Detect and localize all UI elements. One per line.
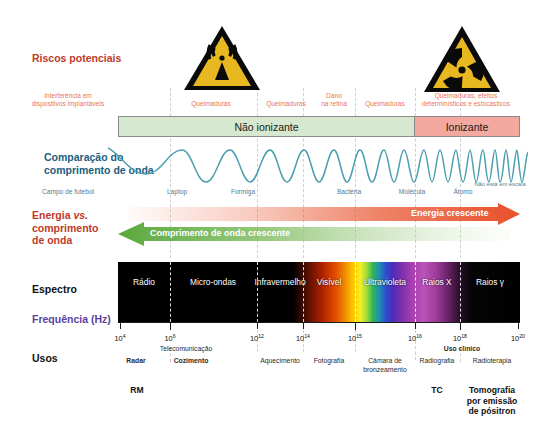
scale-object-label: Formiga <box>218 188 268 196</box>
spectrum-band-label: Raios γ <box>464 277 516 287</box>
axis-tick <box>257 322 258 329</box>
tick-mantissa: 10 <box>114 334 122 343</box>
frequency-tick-label: 1012 <box>242 332 272 343</box>
tick-mantissa: 10 <box>408 334 416 343</box>
use-label: Fotografia <box>302 357 356 366</box>
frequency-tick-label: 1015 <box>340 332 370 343</box>
risk-caption: Dano na retina <box>311 92 357 108</box>
tick-mantissa: 10 <box>296 334 304 343</box>
ionizing-radiation-sign <box>420 22 504 96</box>
axis-tick <box>460 322 461 330</box>
tick-mantissa: 10 <box>511 334 519 343</box>
modality-label-line: TC <box>417 385 457 396</box>
tick-mantissa: 10 <box>250 334 258 343</box>
modality-label-line: Tomografia <box>456 385 528 396</box>
tick-mantissa: 10 <box>453 334 461 343</box>
risk-caption: Queimaduras, efeitos determinísticos e e… <box>402 92 530 108</box>
axis-tick <box>303 322 304 329</box>
modality-label-line: RM <box>117 385 157 396</box>
spectrum-band-label: Micro-ondas <box>175 277 251 287</box>
spectrum-divider <box>303 262 304 322</box>
band-ionizing: Ionizante <box>414 117 519 136</box>
axis-tick <box>355 322 356 330</box>
spectrum-band-label: Ultravioleta <box>353 277 417 287</box>
use-label: Cozimento <box>160 357 222 366</box>
row-title-energy: Energia vs. comprimento de onda <box>32 209 122 247</box>
spectrum-band-label: Raios X <box>411 277 463 287</box>
vs-word: vs. <box>73 209 88 221</box>
band-non-ionizing: Não ionizante <box>119 117 414 136</box>
risk-caption: Queimaduras <box>176 100 246 108</box>
tick-exponent: 18 <box>461 333 467 339</box>
row-title-risks: Riscos potenciais <box>32 52 121 65</box>
tick-exponent: 6 <box>173 333 176 339</box>
spectrum-band-label: Rádio <box>118 277 170 287</box>
scale-object-label: Laptop <box>152 188 202 196</box>
tick-exponent: 14 <box>304 333 310 339</box>
use-label: Uso clínico <box>432 345 492 354</box>
risk-caption-line: Queimaduras <box>176 100 246 108</box>
row-title-uses: Usos <box>32 352 58 365</box>
tick-exponent: 15 <box>356 333 362 339</box>
not-to-scale-note: Não está em escala <box>464 180 536 188</box>
tick-exponent: 20 <box>519 333 525 339</box>
tick-exponent: 4 <box>123 333 126 339</box>
energy-arrow-label: Energia crescente <box>411 209 489 218</box>
frequency-tick-label: 106 <box>156 332 184 343</box>
spectrum-divider <box>355 262 356 322</box>
scale-object-label: Molécula <box>387 188 437 196</box>
modality-label: Tomografia por emissão de pósitron <box>456 385 528 417</box>
use-label: Radioterapia <box>462 357 522 366</box>
modality-label: RM <box>117 385 157 396</box>
frequency-tick-label: 104 <box>106 332 134 343</box>
risk-caption-line: na retina <box>311 100 357 108</box>
spectrum-divider <box>257 262 258 322</box>
use-label: Radiografia <box>409 357 465 366</box>
spectrum-divider <box>460 262 461 322</box>
axis-tick <box>170 322 171 330</box>
spectrum-band-label: Visível <box>305 277 353 287</box>
scale-object-label: Átomo <box>442 188 484 196</box>
risk-caption-line: Dano <box>311 92 357 100</box>
frequency-tick-label: 1016 <box>400 332 430 343</box>
scale-object-label: Bactéria <box>324 188 374 196</box>
tick-exponent: 16 <box>416 333 422 339</box>
axis-tick <box>518 322 519 329</box>
frequency-tick-label: 1014 <box>288 332 318 343</box>
risk-caption-line: Queimaduras, efeitos <box>402 92 530 100</box>
tick-mantissa: 10 <box>348 334 356 343</box>
row-title-energy-line3: de onda <box>32 234 122 247</box>
energy-word: Energia <box>32 209 71 221</box>
tick-exponent: 12 <box>258 333 264 339</box>
scale-object-label: Campo de futebol <box>26 188 110 196</box>
use-label: bronzeamento <box>353 366 417 375</box>
risk-caption-line: dispositivos implantáveis <box>13 100 123 108</box>
spectrum-divider <box>170 262 171 322</box>
risk-caption-line: determinísticos e estocásticos <box>402 100 530 108</box>
row-title-energy-line2: comprimento <box>32 222 122 235</box>
risk-caption-line: Interferência em <box>13 92 123 100</box>
frequency-tick-label: 1018 <box>445 332 475 343</box>
modality-label-line: por emissão <box>456 396 528 407</box>
row-title-energy-line1: Energia vs. <box>32 209 122 222</box>
use-label: Câmara de <box>357 357 413 366</box>
modality-label: TC <box>417 385 457 396</box>
em-spectrum-figure: Riscos potenciais <box>0 0 542 427</box>
row-title-spectrum: Espectro <box>32 283 77 296</box>
spectrum-band <box>118 262 520 322</box>
axis-tick <box>415 322 416 329</box>
axis-tick <box>120 322 121 329</box>
row-title-frequency: Frequência (Hz) <box>32 313 111 326</box>
risk-caption: Interferência em dispositivos implantáve… <box>13 92 123 108</box>
modality-label-line: de pósitron <box>456 406 528 417</box>
wavelength-arrow-label: Comprimento de onda crescente <box>150 229 290 238</box>
use-label: Telecomunicação <box>141 345 231 354</box>
ionizing-classification-bar: Não ionizante Ionizante <box>118 116 520 137</box>
tick-mantissa: 10 <box>164 334 172 343</box>
spectrum-divider <box>415 262 416 322</box>
use-label: Radar <box>110 357 162 366</box>
non-ionizing-radiation-sign <box>180 22 264 94</box>
frequency-tick-label: 1020 <box>503 332 533 343</box>
